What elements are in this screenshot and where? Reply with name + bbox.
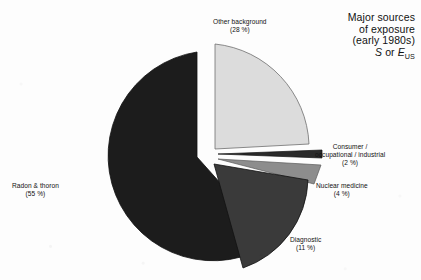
slice-label-radon-thoron-text: Radon & thoron xyxy=(12,182,59,189)
slice-label-other-background-text: Other background xyxy=(213,18,267,25)
slice-label-radon-thoron: Radon & thoron (55 %) xyxy=(12,182,59,198)
pie-chart-figure: Major sources of exposure (early 1980s) … xyxy=(0,0,421,280)
symbol-e-subscript: US xyxy=(405,52,415,61)
slice-label-other-background: Other background (28 %) xyxy=(213,18,267,34)
slice-label-diagnostic: Diagnostic (11 %) xyxy=(290,236,321,252)
slice-label-other-background-percent: (28 %) xyxy=(213,26,267,34)
slice-label-nuclear-medicine-percent: (4 %) xyxy=(316,190,368,198)
slice-label-diagnostic-text: Diagnostic xyxy=(290,236,321,243)
chart-title-symbol-line: S or EUS xyxy=(348,47,415,63)
slice-label-consumer: Consumer / occupational / industrial (2 … xyxy=(315,143,385,167)
slice-label-consumer-percent: (2 %) xyxy=(315,159,385,167)
slice-label-nuclear-medicine: Nuclear medicine (4 %) xyxy=(316,182,368,198)
chart-title-line-1: Major sources xyxy=(348,12,415,24)
symbol-conjunction: or xyxy=(382,46,398,58)
slice-label-diagnostic-percent: (11 %) xyxy=(290,244,321,252)
pie-slice-consumer-occupational-industrial[interactable] xyxy=(218,150,322,158)
slice-label-nuclear-medicine-text: Nuclear medicine xyxy=(316,182,368,189)
slice-label-consumer-text-line-2: occupational / industrial xyxy=(315,151,385,159)
slice-label-radon-thoron-percent: (55 %) xyxy=(12,190,59,198)
pie-slice-other-background[interactable] xyxy=(215,44,309,149)
symbol-e: E xyxy=(398,46,405,58)
slice-label-consumer-text-line-1: Consumer / xyxy=(333,143,368,150)
chart-title: Major sources of exposure (early 1980s) … xyxy=(348,12,415,62)
